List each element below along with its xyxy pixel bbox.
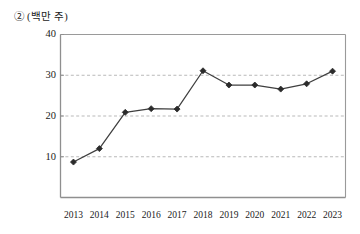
chart-figure: ② (백만 주) 40 30 20 10 [0, 0, 360, 234]
data-point-2020 [252, 82, 258, 88]
data-point-2016 [148, 106, 154, 112]
y-tick-label-30: 30 [30, 69, 56, 80]
data-point-2023 [330, 68, 336, 74]
x-tick-label-2023: 2023 [318, 210, 348, 220]
data-point-2013 [70, 159, 76, 165]
y-tick-label-40: 40 [30, 28, 56, 39]
y-tick-label-10: 10 [30, 151, 56, 162]
data-point-2019 [226, 82, 232, 88]
y-tick-label-20: 20 [30, 110, 56, 121]
data-point-2022 [304, 81, 310, 87]
data-point-2021 [278, 86, 284, 92]
